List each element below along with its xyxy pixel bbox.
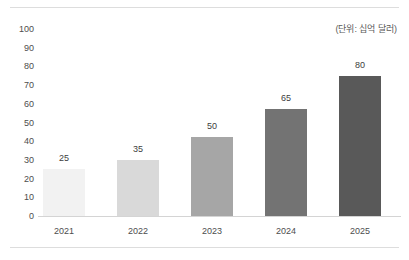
bar-2024 — [265, 109, 307, 216]
bar-2021 — [43, 169, 85, 216]
x-axis-tick-label: 2024 — [251, 227, 321, 236]
y-axis-tick-label: 80 — [8, 62, 34, 71]
y-axis-tick-label: 60 — [8, 100, 34, 109]
bar-value-label: 25 — [34, 154, 94, 163]
bar-2025 — [339, 76, 381, 216]
x-axis-line — [38, 216, 401, 217]
x-axis-tick-label: 2021 — [29, 227, 99, 236]
divider-bottom — [10, 247, 399, 248]
y-axis-tick-label: 90 — [8, 44, 34, 53]
x-axis-tick-label: 2023 — [177, 227, 247, 236]
y-axis-tick-label: 40 — [8, 137, 34, 146]
chart-figure: (단위: 십억 달러) 1009080706050403020100252021… — [0, 0, 409, 260]
y-axis-tick-label: 70 — [8, 81, 34, 90]
bar-value-label: 80 — [330, 61, 390, 70]
y-axis-tick-label: 30 — [8, 156, 34, 165]
bar-value-label: 65 — [256, 94, 316, 103]
bar-value-label: 35 — [108, 145, 168, 154]
bar-value-label: 50 — [182, 122, 242, 131]
bar-2022 — [117, 160, 159, 216]
bar-2023 — [191, 137, 233, 216]
y-axis-tick-label: 50 — [8, 119, 34, 128]
y-axis-tick-label: 20 — [8, 175, 34, 184]
y-axis-tick-label: 10 — [8, 193, 34, 202]
y-axis-tick-label: 0 — [8, 212, 34, 221]
plot-area: 1009080706050403020100252021352022502023… — [0, 0, 409, 260]
x-axis-tick-label: 2025 — [325, 227, 395, 236]
x-axis-tick-label: 2022 — [103, 227, 173, 236]
y-axis-tick-label: 100 — [8, 25, 34, 34]
